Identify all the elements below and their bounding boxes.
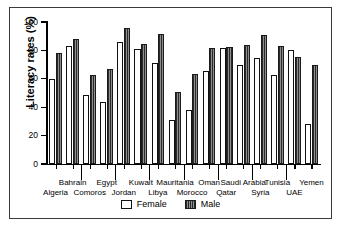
x-axis-label-oman: Oman bbox=[198, 178, 220, 187]
bar-kuwait-male bbox=[141, 44, 147, 164]
bar-bahrain-female bbox=[66, 46, 72, 164]
x-axis-label-algeria: Algeria bbox=[43, 188, 68, 197]
bar-jordan-male bbox=[124, 28, 130, 164]
bar-uae-male bbox=[295, 57, 301, 164]
x-axis-label-kuwait: Kuwait bbox=[129, 178, 153, 187]
x-tick-mark bbox=[124, 164, 125, 169]
bar-syria-male bbox=[261, 35, 267, 164]
x-tick-mark bbox=[141, 164, 142, 169]
x-axis-label-jordan: Jordan bbox=[112, 188, 136, 197]
bar-comoros-female bbox=[83, 95, 89, 164]
bar-oman-male bbox=[209, 48, 215, 164]
bar-saudi-arabia-female bbox=[237, 65, 243, 164]
x-axis-label-egypt: Egypt bbox=[96, 178, 116, 187]
legend-swatch-female-icon bbox=[121, 200, 132, 209]
x-tick-mark bbox=[192, 164, 193, 169]
x-tick-mark bbox=[175, 164, 176, 169]
bar-yemen-male bbox=[312, 65, 318, 164]
legend-label-female: Female bbox=[137, 199, 167, 209]
x-tick-mark bbox=[209, 164, 210, 169]
x-tick-mark bbox=[294, 164, 295, 169]
bar-egypt-female bbox=[100, 102, 106, 164]
x-tick-mark bbox=[56, 164, 57, 169]
bar-tunisia-male bbox=[278, 46, 284, 164]
x-tick-mark bbox=[107, 164, 108, 169]
bar-algeria-male bbox=[56, 53, 62, 164]
x-tick-mark bbox=[73, 164, 74, 169]
bar-yemen-female bbox=[305, 124, 311, 164]
y-tick-label: 80 bbox=[12, 46, 38, 55]
plot-area bbox=[47, 22, 320, 164]
legend-item-female: Female bbox=[121, 199, 167, 209]
literacy-rates-bar-chart: Literacy rates (%) 020406080100 AlgeriaB… bbox=[0, 0, 341, 226]
x-tick-mark bbox=[90, 164, 91, 169]
x-axis-label-mauritania: Mauritania bbox=[156, 178, 193, 187]
x-axis-label-morocco: Morocco bbox=[177, 188, 208, 197]
x-axis-label-syria: Syria bbox=[251, 188, 269, 197]
legend-label-male: Male bbox=[201, 199, 221, 209]
y-tick-label: 100 bbox=[12, 18, 38, 27]
x-axis-label-bahrain: Bahrain bbox=[59, 178, 87, 187]
bar-libya-female bbox=[152, 63, 158, 164]
bar-morocco-male bbox=[192, 74, 198, 164]
bar-comoros-male bbox=[90, 75, 96, 164]
x-tick-mark bbox=[226, 164, 227, 169]
x-axis-label-yemen: Yemen bbox=[299, 178, 324, 187]
x-axis-label-tunisia: Tunisia bbox=[265, 178, 291, 187]
y-tick-label: 20 bbox=[12, 131, 38, 140]
x-tick-mark bbox=[311, 164, 312, 169]
bar-bahrain-male bbox=[73, 39, 79, 164]
x-axis-label-qatar: Qatar bbox=[216, 188, 236, 197]
y-tick-label: 40 bbox=[12, 103, 38, 112]
x-axis-label-comoros: Comoros bbox=[73, 188, 105, 197]
bar-saudi-arabia-male bbox=[244, 45, 250, 164]
bar-oman-female bbox=[203, 71, 209, 164]
bar-jordan-female bbox=[117, 42, 123, 164]
x-axis-label-uae: UAE bbox=[286, 188, 302, 197]
bar-qatar-female bbox=[220, 48, 226, 164]
chart-legend: Female Male bbox=[0, 199, 341, 209]
bar-uae-female bbox=[288, 50, 294, 164]
legend-swatch-male-icon bbox=[185, 200, 196, 209]
bar-algeria-female bbox=[49, 79, 55, 164]
legend-item-male: Male bbox=[185, 199, 221, 209]
x-tick-mark bbox=[243, 164, 244, 169]
bar-qatar-male bbox=[226, 47, 232, 164]
bar-kuwait-female bbox=[134, 49, 140, 164]
bar-egypt-male bbox=[107, 69, 113, 164]
x-axis-label-saudi-arabia: Saudi Arabia bbox=[221, 178, 266, 187]
bar-mauritania-female bbox=[169, 120, 175, 164]
y-tick-label: 60 bbox=[12, 74, 38, 83]
x-axis-label-libya: Libya bbox=[148, 188, 167, 197]
bar-morocco-female bbox=[186, 110, 192, 164]
x-tick-mark bbox=[260, 164, 261, 169]
bar-libya-male bbox=[158, 34, 164, 164]
bar-mauritania-male bbox=[175, 92, 181, 164]
x-tick-mark bbox=[277, 164, 278, 169]
bar-syria-female bbox=[254, 58, 260, 164]
bar-tunisia-female bbox=[271, 75, 277, 164]
y-tick-label: 0 bbox=[12, 160, 38, 169]
x-tick-mark bbox=[158, 164, 159, 169]
